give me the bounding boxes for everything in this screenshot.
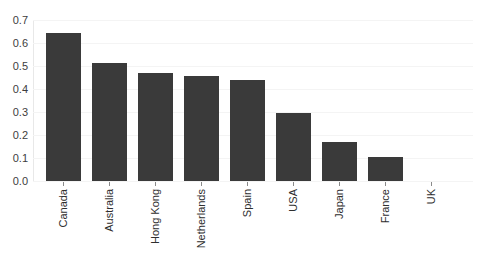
bar <box>322 142 357 181</box>
x-axis-tick-label: UK <box>426 189 437 204</box>
gridline <box>33 181 473 182</box>
bar <box>138 73 173 181</box>
y-axis-tick-label: 0.0 <box>13 176 28 187</box>
x-axis-tick-label-wrap: France <box>362 189 408 261</box>
x-axis-tick <box>201 182 202 186</box>
bar-slot <box>40 20 86 181</box>
x-axis-tick-label: Hong Kong <box>150 189 161 244</box>
bar <box>184 76 219 181</box>
bar <box>230 80 265 181</box>
bar-slot <box>86 20 132 181</box>
bar-slot <box>270 20 316 181</box>
bar-slot <box>224 20 270 181</box>
y-axis-tick-label: 0.6 <box>13 38 28 49</box>
x-axis-tick-label-wrap: Netherlands <box>178 189 224 261</box>
x-axis-tick-label-wrap: USA <box>270 189 316 261</box>
plot-area: 0.00.10.20.30.40.50.60.7 <box>33 20 473 181</box>
x-axis-tick <box>431 182 432 186</box>
x-axis-tick-label: Netherlands <box>196 189 207 248</box>
y-axis-tick-label: 0.7 <box>13 15 28 26</box>
x-axis-tick <box>109 182 110 186</box>
x-axis-tick <box>339 182 340 186</box>
x-axis-tick-label-wrap: Hong Kong <box>132 189 178 261</box>
bar <box>276 113 311 181</box>
x-axis-tick-label-wrap: Spain <box>224 189 270 261</box>
x-axis-tick <box>155 182 156 186</box>
x-axis-tick <box>63 182 64 186</box>
x-axis-tick-label-wrap: UK <box>408 189 454 261</box>
y-axis-tick-label: 0.3 <box>13 107 28 118</box>
bar-chart: 0.00.10.20.30.40.50.60.7 CanadaAustralia… <box>0 0 480 266</box>
x-axis-tick-label-wrap: Canada <box>40 189 86 261</box>
bar-slot <box>408 20 454 181</box>
y-axis-tick-label: 0.4 <box>13 84 28 95</box>
x-axis-tick-label: France <box>380 189 391 223</box>
x-axis-tick <box>385 182 386 186</box>
bars-group <box>33 20 473 181</box>
bar-slot <box>132 20 178 181</box>
bar-slot <box>316 20 362 181</box>
x-axis-tick-label: USA <box>288 189 299 212</box>
x-axis-tick <box>247 182 248 186</box>
bar <box>46 33 81 181</box>
bar-slot <box>178 20 224 181</box>
bar-slot <box>362 20 408 181</box>
x-axis-tick-label: Canada <box>58 189 69 228</box>
x-axis-tick <box>293 182 294 186</box>
bar <box>368 157 403 181</box>
bar <box>92 63 127 181</box>
x-axis-tick-label: Japan <box>334 189 345 219</box>
y-axis-tick-label: 0.2 <box>13 130 28 141</box>
x-axis-tick-label-wrap: Japan <box>316 189 362 261</box>
x-axis-tick-label-wrap: Australia <box>86 189 132 261</box>
y-axis-tick-label: 0.5 <box>13 61 28 72</box>
y-axis-tick-label: 0.1 <box>13 153 28 164</box>
x-axis-tick-label: Australia <box>104 189 115 232</box>
x-axis-tick-label: Spain <box>242 189 253 217</box>
